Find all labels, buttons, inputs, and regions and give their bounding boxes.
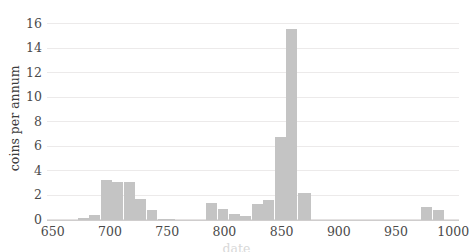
plot-area: 0246810121416 [47, 17, 459, 220]
x-axis-tick-label: 1000 [437, 226, 469, 239]
gridline [47, 97, 459, 98]
bar [147, 210, 158, 220]
y-axis-tick-label: 2 [34, 189, 42, 202]
x-axis-tick-label: 750 [155, 226, 179, 239]
y-axis-tick-label: 16 [26, 18, 42, 31]
y-axis-tick-label: 8 [34, 116, 42, 129]
gridline [47, 170, 459, 171]
gridline [47, 23, 459, 24]
bar [206, 203, 217, 220]
x-axis-tick-label: 850 [270, 226, 294, 239]
x-axis-tick-label: 700 [98, 226, 122, 239]
bar [275, 137, 286, 220]
y-axis-tick-label: 14 [26, 43, 42, 56]
x-axis-tick-label: 800 [212, 226, 236, 239]
bar [124, 182, 135, 220]
bar [286, 29, 297, 220]
bar [135, 199, 146, 220]
bar [433, 210, 444, 220]
x-axis-tick-label: 650 [41, 226, 65, 239]
gridline [47, 146, 459, 147]
bar [263, 200, 274, 220]
bar [101, 180, 112, 220]
gridline [47, 121, 459, 122]
x-axis-title: date [0, 243, 473, 252]
histogram-chart: coins per annum 0246810121416 6507007508… [0, 0, 473, 252]
x-axis-tick-label: 950 [384, 226, 408, 239]
x-axis-tick-label: 900 [327, 226, 351, 239]
bar [298, 193, 311, 220]
y-axis-tick-label: 6 [34, 140, 42, 153]
bar [421, 207, 432, 220]
y-axis-tick-label: 10 [26, 91, 42, 104]
y-axis-tick-label: 12 [26, 67, 42, 80]
bar [218, 209, 229, 220]
bar [252, 204, 263, 220]
x-axis-line [47, 220, 459, 221]
gridline [47, 48, 459, 49]
y-axis-title-label: coins per annum [9, 66, 22, 172]
gridline [47, 72, 459, 73]
y-axis-title: coins per annum [7, 17, 23, 220]
y-axis-tick-label: 4 [34, 165, 42, 178]
bar [112, 182, 123, 220]
